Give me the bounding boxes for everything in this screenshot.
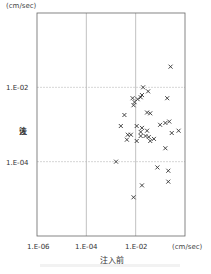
x-marker-point <box>132 103 136 107</box>
x-marker-point <box>177 129 181 133</box>
x-marker-point <box>141 85 145 89</box>
x-marker-point <box>119 124 123 128</box>
faint-caption <box>40 264 180 267</box>
x-marker-point <box>155 165 159 169</box>
plot-frame <box>37 13 185 236</box>
x-marker-point <box>147 135 151 139</box>
x-marker-point <box>140 126 144 130</box>
gridlines <box>37 13 185 236</box>
x-marker-point <box>146 89 150 93</box>
x-marker-point <box>169 65 173 69</box>
x-tick-1e-04: 1.E-04 <box>75 243 98 251</box>
x-marker-point <box>139 130 143 134</box>
x-marker-point <box>148 139 152 143</box>
x-marker-point <box>145 129 149 133</box>
y-tick-1e-04: 1.E-04 <box>6 159 29 167</box>
x-unit-label: (cm/sec) <box>172 243 202 251</box>
data-points <box>114 65 181 200</box>
x-marker-point <box>129 133 133 137</box>
x-tick-1e-02: 1.E-02 <box>125 243 148 251</box>
x-marker-point <box>148 111 152 115</box>
x-marker-point <box>170 131 174 135</box>
x-marker-point <box>114 160 118 164</box>
x-tick-1e-06: 1.E-06 <box>27 243 50 251</box>
x-marker-point <box>125 138 129 142</box>
x-marker-point <box>167 120 171 124</box>
y-axis-title-char: 後 <box>18 127 28 137</box>
x-marker-point <box>139 134 143 138</box>
x-marker-point <box>131 96 135 100</box>
x-marker-point <box>158 123 162 127</box>
x-marker-point <box>166 180 170 184</box>
x-marker-point <box>165 96 169 100</box>
x-marker-point <box>163 146 167 150</box>
y-tick-1e-02: 1.E-02 <box>6 84 29 92</box>
x-marker-point <box>140 183 144 187</box>
x-marker-point <box>152 137 156 141</box>
x-marker-point <box>163 121 167 125</box>
x-marker-point <box>132 195 136 199</box>
x-marker-point <box>135 139 139 143</box>
scatter-plot <box>0 0 211 274</box>
x-marker-point <box>135 124 139 128</box>
x-marker-point <box>143 134 147 138</box>
x-marker-point <box>166 169 170 173</box>
x-marker-point <box>122 113 126 117</box>
